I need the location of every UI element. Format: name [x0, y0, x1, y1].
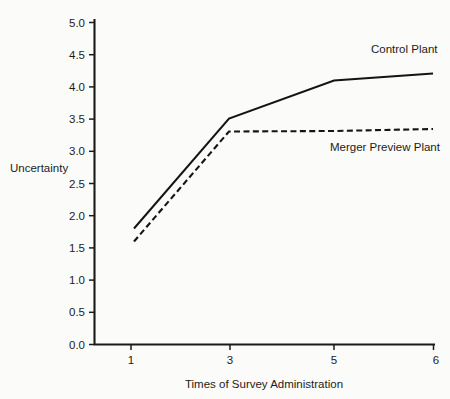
x-tick-label: 5: [331, 354, 337, 366]
x-tick-label: 3: [227, 354, 233, 366]
y-tick-label: 0.5: [69, 306, 85, 318]
series-label-control-plant: Control Plant: [371, 43, 438, 55]
chart-axes: [95, 20, 435, 345]
y-tick-label: 5.0: [69, 17, 85, 29]
y-tick-label: 1.5: [69, 242, 85, 254]
line-chart-figure: 5.0 4.5 4.0 3.5 3.0 2.5 2.0 1.5 1.0 0.5 …: [0, 0, 450, 399]
y-tick-label: 2.5: [69, 178, 85, 190]
y-axis-tick-labels: 5.0 4.5 4.0 3.5 3.0 2.5 2.0 1.5 1.0 0.5 …: [69, 17, 85, 351]
y-axis-title: Uncertainty: [10, 162, 68, 174]
y-tick-label: 4.0: [69, 81, 85, 93]
y-axis-ticks: [89, 23, 94, 345]
y-tick-label: 0.0: [69, 339, 85, 351]
y-tick-label: 4.5: [69, 49, 85, 61]
x-axis-tick-labels: 1 3 5 6: [128, 354, 439, 366]
series-label-merger-preview-plant: Merger Preview Plant: [330, 141, 441, 153]
y-tick-label: 2.0: [69, 210, 85, 222]
y-tick-label: 3.0: [69, 145, 85, 157]
x-tick-label: 6: [433, 354, 439, 366]
y-tick-label: 3.5: [69, 113, 85, 125]
x-tick-label: 1: [128, 354, 134, 366]
x-axis-title: Times of Survey Administration: [185, 378, 343, 390]
y-tick-label: 1.0: [69, 274, 85, 286]
